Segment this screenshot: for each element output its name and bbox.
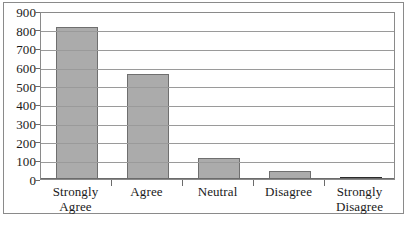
plot-area bbox=[40, 12, 395, 180]
y-axis-tick-mark bbox=[35, 30, 40, 31]
y-axis-tick-mark bbox=[35, 105, 40, 106]
gridline bbox=[41, 125, 394, 126]
x-axis-category-label: Neutral bbox=[182, 184, 253, 199]
x-axis-baseline bbox=[41, 178, 394, 179]
y-axis-tick-label: 800 bbox=[16, 24, 36, 37]
gridline bbox=[41, 87, 394, 88]
y-axis-tick-mark bbox=[35, 49, 40, 50]
y-axis-tick-mark bbox=[35, 12, 40, 13]
x-axis-category-label-line: Disagree bbox=[253, 184, 324, 199]
y-axis-tick-label: 700 bbox=[16, 43, 36, 56]
x-axis-category-label-line: Disagree bbox=[324, 199, 395, 214]
bar-slot bbox=[325, 13, 396, 179]
y-axis-tick-label: 100 bbox=[16, 155, 36, 168]
bar-series bbox=[41, 13, 394, 179]
y-axis-tick-mark bbox=[35, 86, 40, 87]
x-axis-category-label-line: Strongly bbox=[324, 184, 395, 199]
x-axis-category-label: Disagree bbox=[253, 184, 324, 199]
y-axis-tick-labels: 9008007006005004003002001000 bbox=[6, 12, 36, 180]
gridline bbox=[41, 162, 394, 163]
x-axis-category-label-line: Strongly bbox=[40, 184, 111, 199]
x-axis-category-labels: StronglyAgreeAgreeNeutralDisagreeStrongl… bbox=[40, 184, 395, 224]
y-axis-tick-mark bbox=[35, 180, 40, 181]
bar-slot bbox=[254, 13, 325, 179]
x-axis-category-label-line: Neutral bbox=[182, 184, 253, 199]
gridline bbox=[41, 106, 394, 107]
y-axis-tick-label: 400 bbox=[16, 99, 36, 112]
y-axis-tick-label: 900 bbox=[16, 6, 36, 19]
gridline bbox=[41, 31, 394, 32]
bar bbox=[198, 158, 240, 179]
y-axis-tick-mark bbox=[35, 161, 40, 162]
x-axis-tick-mark bbox=[111, 180, 112, 186]
x-axis-category-label-line: Agree bbox=[40, 199, 111, 214]
y-axis-tick-label: 200 bbox=[16, 136, 36, 149]
bar-chart-figure: 9008007006005004003002001000 StronglyAgr… bbox=[0, 0, 408, 228]
y-axis-tick-label: 500 bbox=[16, 80, 36, 93]
y-axis-tick-mark bbox=[35, 142, 40, 143]
x-axis-tick-mark bbox=[324, 180, 325, 186]
gridline bbox=[41, 143, 394, 144]
y-axis-tick-mark bbox=[35, 124, 40, 125]
bar-slot bbox=[183, 13, 254, 179]
x-axis-category-label-line: Agree bbox=[111, 184, 182, 199]
y-axis-tick-label: 600 bbox=[16, 62, 36, 75]
x-axis-category-label: StronglyAgree bbox=[40, 184, 111, 214]
y-axis-tick-label: 300 bbox=[16, 118, 36, 131]
bar-slot bbox=[112, 13, 183, 179]
x-axis-category-label: StronglyDisagree bbox=[324, 184, 395, 214]
y-axis-tick-mark bbox=[35, 68, 40, 69]
bar-slot bbox=[41, 13, 112, 179]
gridline bbox=[41, 69, 394, 70]
x-axis-tick-mark bbox=[182, 180, 183, 186]
x-axis-tick-mark bbox=[253, 180, 254, 186]
x-axis-category-label: Agree bbox=[111, 184, 182, 199]
gridline bbox=[41, 50, 394, 51]
bar bbox=[127, 74, 169, 179]
